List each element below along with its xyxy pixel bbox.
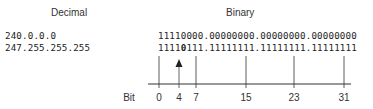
tick-label-15: 15	[240, 92, 251, 103]
tick-label-0: 0	[156, 92, 162, 103]
tick-label-4: 4	[176, 92, 182, 103]
tick-label-31: 31	[338, 92, 349, 103]
bit-axis-diagram	[0, 0, 373, 109]
axis-label-bit: Bit	[123, 92, 135, 103]
tick-label-23: 23	[288, 92, 299, 103]
arrow-up-icon	[176, 59, 183, 67]
tick-label-7: 7	[193, 92, 199, 103]
